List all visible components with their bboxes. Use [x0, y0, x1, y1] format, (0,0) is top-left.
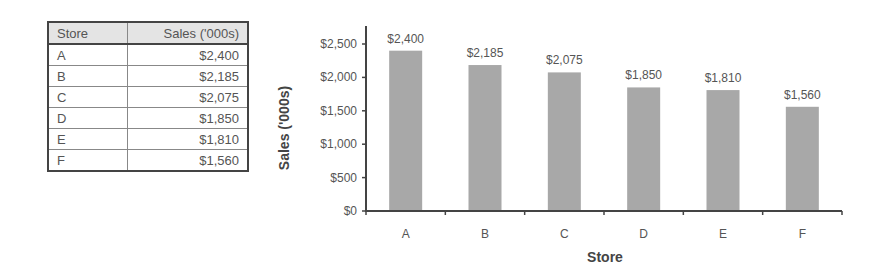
data-label: $1,560: [784, 88, 821, 102]
x-tick-label: D: [639, 227, 648, 241]
bar: [469, 65, 502, 211]
x-tick-label: A: [402, 227, 410, 241]
bar: [548, 72, 581, 211]
y-tick-label: $1,000: [320, 137, 357, 151]
bar: [389, 51, 422, 211]
data-label: $1,850: [625, 68, 662, 82]
bar: [786, 107, 819, 211]
x-tick-label: B: [481, 227, 489, 241]
bar: [707, 90, 740, 211]
x-tick-label: C: [560, 227, 569, 241]
x-tick-label: F: [799, 227, 806, 241]
bar-chart: $2,400A$2,185B$2,075C$1,850D$1,810E$1,56…: [0, 0, 887, 278]
y-tick-label: $0: [344, 204, 358, 218]
y-tick-label: $1,500: [320, 104, 357, 118]
y-axis-title: Sales ('000s): [276, 86, 292, 170]
data-label: $2,075: [546, 53, 583, 67]
y-tick-label: $500: [330, 171, 357, 185]
y-tick-label: $2,500: [320, 37, 357, 51]
data-label: $2,400: [387, 32, 424, 46]
bar: [627, 87, 660, 211]
x-tick-label: E: [719, 227, 727, 241]
data-label: $1,810: [705, 71, 742, 85]
x-axis-title: Store: [587, 249, 623, 265]
data-label: $2,185: [467, 46, 504, 60]
y-tick-label: $2,000: [320, 70, 357, 84]
